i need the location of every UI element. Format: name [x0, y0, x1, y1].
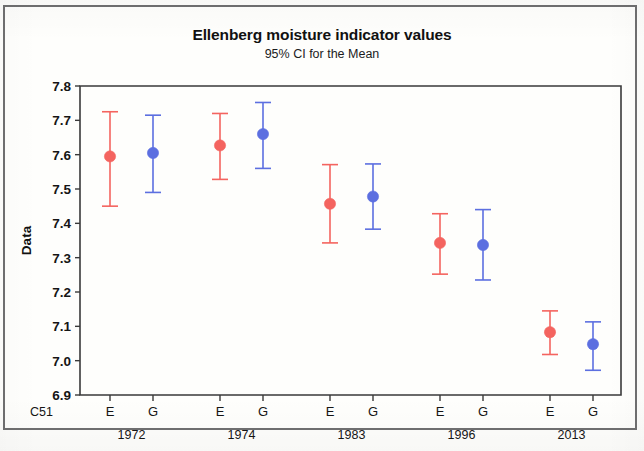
- y-tick-label: 7.2: [52, 285, 71, 300]
- y-tick-label: 7.5: [52, 182, 71, 197]
- y-tick-label: 7.3: [52, 251, 71, 266]
- y-tick-label: 7.6: [52, 148, 71, 163]
- y-tick-label: 7.7: [52, 113, 71, 128]
- data-point-1972-G: [145, 115, 161, 192]
- mean-marker: [214, 140, 225, 151]
- mean-marker: [104, 151, 115, 162]
- x-tick-label-e: E: [546, 404, 555, 419]
- x-group-label-2013: 2013: [558, 428, 586, 442]
- y-tick-label: 6.9: [52, 388, 71, 403]
- y-tick-label: 7.4: [52, 216, 71, 231]
- data-point-1974-G: [255, 102, 271, 168]
- x-tick-label-e: E: [106, 404, 115, 419]
- y-axis-title: Data: [19, 225, 34, 255]
- y-tick-label: 7.8: [52, 79, 71, 94]
- mean-marker: [367, 191, 378, 202]
- data-point-1983-E: [322, 165, 338, 243]
- x-tick-label-g: G: [588, 404, 598, 419]
- mean-marker: [147, 147, 158, 158]
- data-point-2013-E: [542, 311, 558, 355]
- mean-marker: [324, 198, 335, 209]
- plot-frame-rect: [80, 86, 621, 395]
- interval-plot: 7.87.77.67.57.47.37.27.17.06.9 EGEGEGEGE…: [0, 0, 644, 451]
- data-point-1996-E: [432, 214, 448, 274]
- x-group-label-1972: 1972: [118, 428, 146, 442]
- x-group-label-1974: 1974: [228, 428, 256, 442]
- x-tick-label-e: E: [326, 404, 335, 419]
- x-tick-label-g: G: [258, 404, 268, 419]
- axis-labels-group: C51Data: [19, 225, 53, 419]
- data-point-1972-E: [102, 112, 118, 206]
- x-tick-label-g: G: [478, 404, 488, 419]
- y-tick-label: 7.0: [52, 354, 71, 369]
- mean-marker: [257, 128, 268, 139]
- x-group-label-1996: 1996: [448, 428, 476, 442]
- x-axis: EGEGEGEGEG19721974198319962013: [106, 395, 598, 442]
- x-group-label-1983: 1983: [338, 428, 366, 442]
- plot-area-frame: [80, 86, 621, 395]
- mean-marker: [477, 239, 488, 250]
- data-point-1996-G: [475, 210, 491, 280]
- mean-marker: [587, 339, 598, 350]
- mean-marker: [434, 237, 445, 248]
- x-tick-label-e: E: [436, 404, 445, 419]
- x-tick-label-e: E: [216, 404, 225, 419]
- x-axis-corner-label: C51: [30, 405, 53, 419]
- data-point-1974-E: [212, 113, 228, 179]
- data-series-group: [102, 102, 601, 370]
- y-axis: 7.87.77.67.57.47.37.27.17.06.9: [52, 79, 80, 403]
- y-tick-label: 7.1: [52, 319, 71, 334]
- data-point-1983-G: [365, 164, 381, 229]
- mean-marker: [544, 327, 555, 338]
- x-tick-label-g: G: [368, 404, 378, 419]
- data-point-2013-G: [585, 322, 601, 370]
- x-tick-label-g: G: [148, 404, 158, 419]
